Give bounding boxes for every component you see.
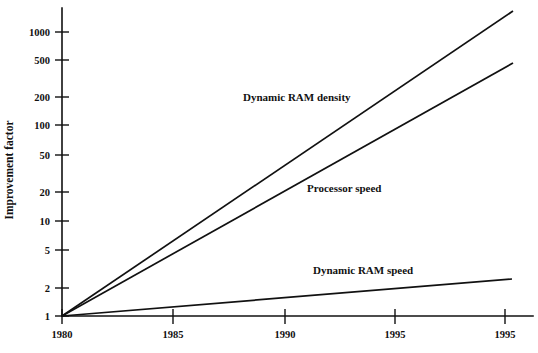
x-tick-label: 1985 — [163, 329, 184, 340]
series-label-dynamic-ram-density: Dynamic RAM density — [243, 91, 351, 103]
x-tick-label: 1995 — [385, 329, 406, 340]
y-tick-label: 1000 — [29, 27, 50, 38]
y-tick-label: 1 — [45, 311, 50, 322]
y-tick-label: 5 — [45, 245, 50, 256]
series-label-processor-speed: Processor speed — [307, 182, 381, 194]
y-tick-label: 2 — [45, 283, 50, 294]
series-label-dynamic-ram-speed: Dynamic RAM speed — [313, 264, 413, 276]
y-tick-label: 10 — [40, 216, 51, 227]
y-tick-label: 20 — [40, 187, 51, 198]
y-axis-tick-labels: 1000 500 200 100 50 20 10 5 2 1 — [29, 27, 50, 322]
chart-canvas: 1000 500 200 100 50 20 10 5 2 1 1980 198… — [0, 0, 538, 353]
y-tick-label: 500 — [34, 55, 50, 66]
chart-figure: 1000 500 200 100 50 20 10 5 2 1 1980 198… — [0, 0, 538, 353]
series-lines — [62, 11, 513, 316]
series-line-dynamic-ram-density — [62, 11, 513, 316]
x-tick-label: 1980 — [52, 329, 73, 340]
series-line-dynamic-ram-speed — [62, 279, 512, 316]
x-tick-label: 1990 — [275, 329, 296, 340]
x-tick-label: 1995 — [495, 329, 516, 340]
y-axis-title: Improvement factor — [3, 120, 16, 219]
x-axis-tick-labels: 1980 1985 1990 1995 1995 — [52, 329, 516, 340]
y-tick-label: 200 — [34, 92, 50, 103]
y-tick-label: 50 — [40, 150, 51, 161]
y-tick-label: 100 — [34, 120, 50, 131]
